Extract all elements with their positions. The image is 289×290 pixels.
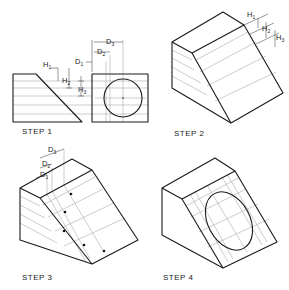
ellipse (196, 184, 262, 258)
d2-label-step3: D2 (42, 159, 50, 169)
h3-label-step2: H3 (276, 33, 284, 43)
step-3-isometric-block: D3 D2 D1 (20, 145, 138, 264)
h2-label-step2: H2 (262, 24, 270, 34)
d3-label: D3 (106, 37, 114, 47)
d2-label: D2 (97, 47, 105, 57)
d1-label-step3: D1 (40, 170, 48, 180)
h3-label: H3 (78, 85, 86, 95)
d1-label: D1 (75, 57, 83, 67)
step-4-isometric-block (162, 158, 277, 268)
step-1-d-dimensions: D3 D2 D1 (75, 37, 123, 72)
step-1-label: STEP 1 (22, 127, 52, 136)
d3-label-step3: D3 (48, 145, 56, 155)
h1-label: H1 (43, 60, 51, 70)
step-2-isometric-block: H1 H2 H3 (172, 10, 284, 123)
technical-drawing: H1 H2 H3 D3 D2 D1 STEP 1 H1 H2 H3 (0, 0, 289, 290)
h1-label-step2: H1 (247, 10, 255, 20)
step-2-label: STEP 2 (174, 129, 204, 138)
step-4-label: STEP 4 (163, 273, 193, 282)
step-3-label: STEP 3 (22, 273, 52, 282)
